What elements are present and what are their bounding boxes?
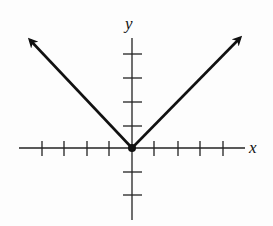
x-axis-label: x bbox=[248, 138, 257, 157]
chart: y x bbox=[0, 0, 273, 226]
origin-point bbox=[128, 144, 136, 152]
abs-value-graph: y x bbox=[0, 0, 273, 226]
y-axis-label: y bbox=[123, 14, 133, 33]
y-axis bbox=[123, 38, 142, 220]
